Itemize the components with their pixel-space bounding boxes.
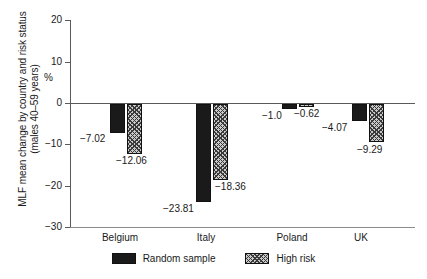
- bar-italy-random-sample: [196, 104, 211, 202]
- y-tick-10: [65, 62, 70, 63]
- legend-item-random-sample: Random sample: [112, 253, 216, 264]
- value-label-belgium-random-sample: −7.02: [80, 134, 105, 144]
- legend-label-random-sample: Random sample: [143, 253, 216, 264]
- legend-item-high-risk: High risk: [245, 253, 315, 264]
- bar-italy-high-risk: [213, 104, 228, 180]
- y-tick-label-neg10: −10: [26, 139, 62, 149]
- y-tick-label-20: 20: [26, 15, 62, 25]
- y-tick-neg20: [65, 186, 70, 187]
- value-label-belgium-high-risk: −12.06: [116, 156, 147, 166]
- value-label-uk-high-risk: −9.29: [357, 145, 382, 155]
- x-axis-line: [70, 227, 415, 228]
- x-axis-label-poland: Poland: [257, 232, 327, 243]
- value-label-italy-high-risk: −18.36: [215, 182, 246, 192]
- bar-belgium-high-risk: [127, 104, 142, 154]
- y-tick-label-neg30: −30: [26, 222, 62, 232]
- chart-legend: Random sample High risk: [0, 253, 427, 264]
- legend-label-high-risk: High risk: [276, 253, 315, 264]
- x-axis-label-belgium: Belgium: [85, 232, 155, 243]
- legend-swatch-high-risk-icon: [245, 253, 269, 264]
- y-axis-tick-labels: 20 10 0 −10 −20 −30: [22, 0, 62, 279]
- y-axis-line: [70, 20, 71, 228]
- bar-uk-high-risk: [369, 104, 384, 142]
- bar-belgium-random-sample: [110, 104, 125, 133]
- bar-uk-random-sample: [352, 104, 367, 121]
- y-tick-label-0: 0: [26, 98, 62, 108]
- y-tick-label-neg20: −20: [26, 181, 62, 191]
- x-axis-label-uk: UK: [326, 232, 396, 243]
- y-tick-neg10: [65, 144, 70, 145]
- value-label-poland-random-sample: −1.0: [262, 111, 282, 121]
- bar-chart: MLF mean change by country and risk stat…: [0, 0, 427, 279]
- bar-poland-high-risk: [299, 104, 314, 107]
- y-tick-neg30: [65, 227, 70, 228]
- y-tick-label-10: 10: [26, 57, 62, 67]
- y-tick-20: [65, 20, 70, 21]
- value-label-poland-high-risk: −0.62: [294, 109, 319, 119]
- y-tick-0: [65, 103, 70, 104]
- value-label-italy-random-sample: −23.81: [163, 204, 194, 214]
- legend-swatch-random-sample-icon: [112, 253, 136, 264]
- x-axis-label-italy: Italy: [171, 232, 241, 243]
- value-label-uk-random-sample: −4.07: [322, 123, 347, 133]
